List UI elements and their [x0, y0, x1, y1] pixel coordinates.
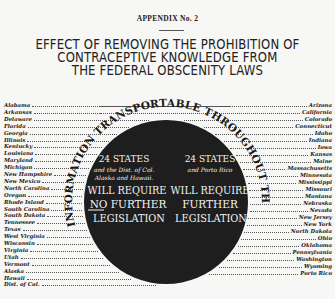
right-subtitle-1: and Porto Rico [188, 166, 233, 173]
left-subtitle-2: Alaska and Hawaii. [94, 174, 154, 181]
circle-diagram: INFORMATION TRANSPORTABLE THROUGHOUT THE… [0, 0, 335, 299]
left-line-1: WILL REQUIRE [88, 185, 167, 196]
right-line-1: WILL REQUIRE [171, 185, 250, 196]
left-subtitle-1: and the Dist. of Col. [94, 166, 155, 174]
left-count: 24 STATES [99, 154, 150, 164]
right-line-3: LEGISLATION [175, 213, 247, 224]
left-line-3: LEGISLATION [93, 213, 165, 224]
right-count: 24 STATES [185, 154, 236, 164]
left-line-2: NO FURTHER [90, 198, 168, 210]
right-line-2: FURTHER [182, 198, 239, 210]
